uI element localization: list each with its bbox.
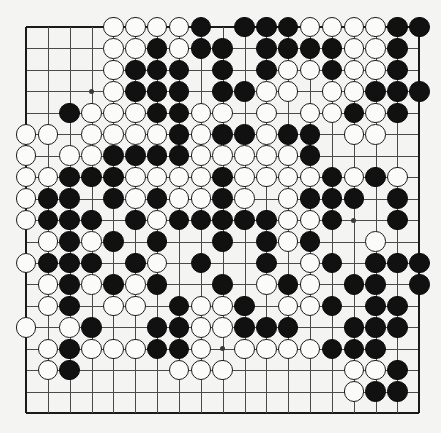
black-stone[interactable] xyxy=(59,231,80,252)
black-stone[interactable] xyxy=(322,210,343,231)
black-stone[interactable] xyxy=(147,231,168,252)
black-stone[interactable] xyxy=(234,17,255,38)
white-stone[interactable] xyxy=(256,274,277,295)
black-stone[interactable] xyxy=(147,103,168,124)
white-stone[interactable] xyxy=(365,103,386,124)
black-stone[interactable] xyxy=(59,103,80,124)
white-stone[interactable] xyxy=(191,296,212,317)
black-stone[interactable] xyxy=(212,210,233,231)
black-stone[interactable] xyxy=(365,167,386,188)
black-stone[interactable] xyxy=(256,17,277,38)
black-stone[interactable] xyxy=(125,145,146,166)
white-stone[interactable] xyxy=(169,38,190,59)
black-stone[interactable] xyxy=(81,317,102,338)
black-stone[interactable] xyxy=(365,296,386,317)
black-stone[interactable] xyxy=(191,17,212,38)
white-stone[interactable] xyxy=(191,167,212,188)
white-stone[interactable] xyxy=(256,103,277,124)
white-stone[interactable] xyxy=(38,124,59,145)
black-stone[interactable] xyxy=(169,124,190,145)
white-stone[interactable] xyxy=(16,167,37,188)
black-stone[interactable] xyxy=(387,81,408,102)
white-stone[interactable] xyxy=(278,231,299,252)
black-stone[interactable] xyxy=(322,167,343,188)
black-stone[interactable] xyxy=(256,210,277,231)
black-stone[interactable] xyxy=(212,124,233,145)
white-stone[interactable] xyxy=(344,38,365,59)
white-stone[interactable] xyxy=(278,188,299,209)
black-stone[interactable] xyxy=(169,145,190,166)
black-stone[interactable] xyxy=(234,124,255,145)
black-stone[interactable] xyxy=(59,339,80,360)
white-stone[interactable] xyxy=(256,81,277,102)
white-stone[interactable] xyxy=(256,339,277,360)
white-stone[interactable] xyxy=(191,317,212,338)
white-stone[interactable] xyxy=(103,38,124,59)
white-stone[interactable] xyxy=(234,167,255,188)
white-stone[interactable] xyxy=(212,296,233,317)
black-stone[interactable] xyxy=(300,38,321,59)
black-stone[interactable] xyxy=(387,17,408,38)
white-stone[interactable] xyxy=(125,339,146,360)
black-stone[interactable] xyxy=(300,231,321,252)
white-stone[interactable] xyxy=(147,210,168,231)
white-stone[interactable] xyxy=(212,145,233,166)
white-stone[interactable] xyxy=(103,60,124,81)
black-stone[interactable] xyxy=(278,38,299,59)
white-stone[interactable] xyxy=(103,339,124,360)
black-stone[interactable] xyxy=(234,210,255,231)
white-stone[interactable] xyxy=(278,60,299,81)
black-stone[interactable] xyxy=(344,317,365,338)
black-stone[interactable] xyxy=(147,188,168,209)
black-stone[interactable] xyxy=(278,274,299,295)
white-stone[interactable] xyxy=(365,231,386,252)
black-stone[interactable] xyxy=(256,60,277,81)
black-stone[interactable] xyxy=(365,317,386,338)
black-stone[interactable] xyxy=(322,296,343,317)
black-stone[interactable] xyxy=(125,210,146,231)
black-stone[interactable] xyxy=(147,274,168,295)
black-stone[interactable] xyxy=(409,17,430,38)
black-stone[interactable] xyxy=(169,317,190,338)
white-stone[interactable] xyxy=(169,167,190,188)
white-stone[interactable] xyxy=(300,210,321,231)
white-stone[interactable] xyxy=(191,339,212,360)
white-stone[interactable] xyxy=(322,103,343,124)
black-stone[interactable] xyxy=(256,317,277,338)
black-stone[interactable] xyxy=(169,339,190,360)
white-stone[interactable] xyxy=(212,103,233,124)
black-stone[interactable] xyxy=(212,274,233,295)
white-stone[interactable] xyxy=(234,188,255,209)
black-stone[interactable] xyxy=(191,210,212,231)
black-stone[interactable] xyxy=(212,231,233,252)
white-stone[interactable] xyxy=(344,81,365,102)
white-stone[interactable] xyxy=(38,167,59,188)
white-stone[interactable] xyxy=(103,124,124,145)
black-stone[interactable] xyxy=(59,210,80,231)
white-stone[interactable] xyxy=(256,167,277,188)
white-stone[interactable] xyxy=(300,274,321,295)
white-stone[interactable] xyxy=(365,17,386,38)
black-stone[interactable] xyxy=(125,81,146,102)
black-stone[interactable] xyxy=(234,296,255,317)
white-stone[interactable] xyxy=(38,360,59,381)
black-stone[interactable] xyxy=(300,124,321,145)
black-stone[interactable] xyxy=(212,38,233,59)
white-stone[interactable] xyxy=(125,296,146,317)
black-stone[interactable] xyxy=(147,339,168,360)
black-stone[interactable] xyxy=(59,167,80,188)
white-stone[interactable] xyxy=(344,60,365,81)
white-stone[interactable] xyxy=(147,167,168,188)
white-stone[interactable] xyxy=(365,360,386,381)
white-stone[interactable] xyxy=(125,38,146,59)
white-stone[interactable] xyxy=(344,381,365,402)
white-stone[interactable] xyxy=(59,317,80,338)
black-stone[interactable] xyxy=(147,38,168,59)
white-stone[interactable] xyxy=(256,145,277,166)
black-stone[interactable] xyxy=(125,60,146,81)
black-stone[interactable] xyxy=(344,188,365,209)
black-stone[interactable] xyxy=(103,167,124,188)
black-stone[interactable] xyxy=(278,124,299,145)
white-stone[interactable] xyxy=(191,188,212,209)
white-stone[interactable] xyxy=(234,145,255,166)
